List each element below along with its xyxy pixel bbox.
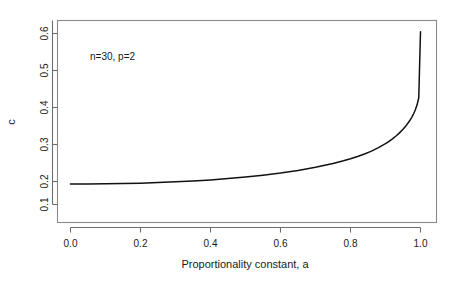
x-tick-label: 0.4 <box>204 238 218 249</box>
x-tick-label: 0.2 <box>134 238 148 249</box>
x-tick-label: 0.8 <box>344 238 358 249</box>
plot-annotation: n=30, p=2 <box>90 51 135 62</box>
y-tick-label: 0.5 <box>39 63 50 77</box>
y-tick-label: 0.3 <box>39 137 50 151</box>
x-tick-label: 0.0 <box>64 238 78 249</box>
y-tick-label: 0.1 <box>39 197 50 211</box>
y-tick-label: 0.4 <box>39 100 50 114</box>
y-axis-ticks <box>53 34 58 205</box>
x-tick-label: 0.6 <box>274 238 288 249</box>
x-axis-ticks <box>71 228 421 233</box>
y-tick-label: 0.6 <box>39 26 50 40</box>
y-axis-title: c <box>5 119 17 125</box>
y-tick-label: 0.2 <box>39 174 50 188</box>
x-tick-label: 1.0 <box>414 238 428 249</box>
line-chart: 0.1 0.2 0.3 0.4 0.5 0.6 c 0.0 0.2 0.4 0.… <box>0 0 471 281</box>
figure-container: 0.1 0.2 0.3 0.4 0.5 0.6 c 0.0 0.2 0.4 0.… <box>0 0 471 281</box>
x-axis-title: Proportionality constant, a <box>181 258 309 270</box>
